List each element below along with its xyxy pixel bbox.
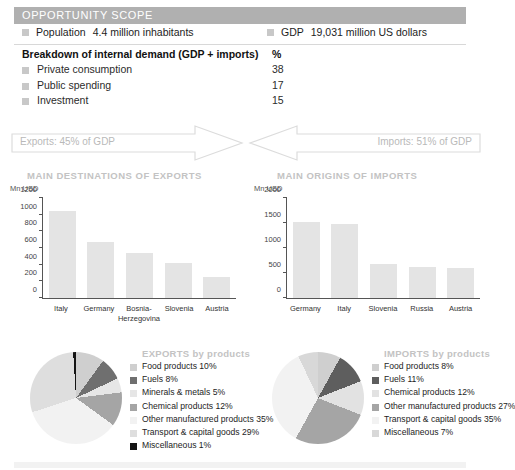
category-label: Germany — [286, 304, 325, 314]
axis-tick-label: 0 — [277, 285, 281, 294]
exports-pie-title: EXPORTS by products — [142, 348, 248, 359]
imports-origins-bar-chart: Mn USD 0500100015002000 GermanyItalySlov… — [252, 184, 488, 334]
legend-swatch-icon — [372, 430, 379, 437]
legend-label: Food products 8% — [384, 361, 454, 371]
breakdown-unit: % — [272, 48, 281, 60]
legend-label: Fuels 11% — [384, 374, 424, 384]
axis-tick — [39, 214, 43, 215]
x-axis-category-labels: ItalyGermanyBosnia-HerzegovinaSloveniaAu… — [42, 304, 236, 323]
fact-gdp: GDP 19,031 million US dollars — [267, 26, 427, 38]
category-label: Italy — [42, 304, 80, 323]
axis-tick-label: 200 — [24, 268, 37, 277]
axis-tick — [283, 297, 287, 298]
legend-swatch-icon — [372, 377, 379, 384]
fact-population-value: 4.4 million inhabitants — [93, 26, 194, 38]
legend-label: Chemical products 12% — [384, 387, 475, 397]
imports-legend-items: Food products 8%Fuels 11%Chemical produc… — [372, 361, 497, 440]
bar — [447, 268, 474, 298]
exports-destinations-bar-chart: Mn USD 020040060080010001200 ItalyGerman… — [8, 184, 244, 334]
legend-item: Minerals & metals 5% — [130, 387, 248, 400]
bar — [165, 263, 192, 298]
plot-area: 0500100015002000 — [286, 198, 480, 299]
exports-pie-legend: EXPORTS by products Food products 10%Fue… — [130, 348, 248, 453]
legend-label: Miscellaneous 7% — [384, 427, 453, 437]
internal-demand-breakdown: Breakdown of internal demand (GDP + impo… — [14, 48, 466, 110]
category-label: Russia — [402, 304, 441, 314]
bar — [126, 253, 153, 298]
x-axis-category-labels: GermanyItalySloveniaRussiaAustria — [286, 304, 480, 314]
breakdown-row-value: 15 — [272, 94, 284, 106]
axis-tick-label: 1200 — [20, 185, 37, 194]
breakdown-row: Private consumption 38 — [14, 63, 466, 79]
axis-tick — [39, 297, 43, 298]
fact-gdp-value: 19,031 million US dollars — [311, 26, 427, 38]
breakdown-title: Breakdown of internal demand (GDP + impo… — [22, 48, 258, 60]
axis-tick — [39, 230, 43, 231]
bullet-square-icon — [22, 98, 29, 105]
breakdown-row-name: Private consumption — [37, 63, 132, 75]
axis-tick — [39, 264, 43, 265]
legend-swatch-icon — [130, 364, 137, 371]
legend-label: Miscellaneous 1% — [142, 440, 211, 450]
legend-swatch-icon — [372, 417, 379, 424]
legend-item: Other manufactured products 35% — [130, 414, 248, 427]
legend-swatch-icon — [130, 377, 137, 384]
legend-swatch-icon — [130, 430, 137, 437]
breakdown-row-name: Investment — [37, 94, 88, 106]
legend-item: Food products 8% — [372, 361, 497, 374]
category-label: Slovenia — [160, 304, 198, 323]
axis-tick-label: 500 — [268, 260, 281, 269]
category-label: Austria — [198, 304, 236, 323]
legend-swatch-icon — [130, 390, 137, 397]
legend-label: Other manufactured products 27% — [384, 401, 515, 411]
axis-tick-label: 400 — [24, 251, 37, 260]
imports-pie-title: IMPORTS by products — [384, 348, 497, 359]
bar-wrapper — [326, 198, 365, 298]
axis-tick-label: 600 — [24, 235, 37, 244]
exports-share-label: Exports: 45% of GDP — [20, 136, 115, 147]
bar-series — [43, 198, 236, 298]
legend-label: Food products 10% — [142, 361, 217, 371]
bar — [49, 211, 76, 299]
imports-pie-chart — [272, 352, 364, 444]
axis-tick — [39, 197, 43, 198]
bar-wrapper — [287, 198, 326, 298]
bar-wrapper — [159, 198, 198, 298]
bar-wrapper — [43, 198, 82, 298]
breakdown-row-name: Public spending — [37, 79, 111, 91]
category-label: Austria — [441, 304, 480, 314]
footer-bar — [14, 462, 466, 468]
key-facts-row: Population 4.4 million inhabitants GDP 1… — [14, 26, 466, 43]
plot-area: 020040060080010001200 — [42, 198, 236, 299]
bar-wrapper — [197, 198, 236, 298]
category-label: Italy — [325, 304, 364, 314]
axis-tick-label: 1000 — [20, 201, 37, 210]
legend-swatch-icon — [130, 417, 137, 424]
bar — [370, 264, 397, 298]
legend-item: Chemical products 12% — [130, 401, 248, 414]
fact-gdp-label: GDP — [281, 26, 304, 38]
axis-tick — [39, 280, 43, 281]
imports-by-products-block: IMPORTS by products Food products 8%Fuel… — [250, 348, 490, 460]
category-label: Bosnia-Herzegovina — [118, 304, 160, 323]
imports-pie-legend: IMPORTS by products Food products 8%Fuel… — [372, 348, 497, 440]
legend-item: Miscellaneous 1% — [130, 440, 248, 453]
category-label: Germany — [80, 304, 118, 323]
breakdown-row-value: 17 — [272, 79, 284, 91]
axis-tick-label: 2000 — [264, 185, 281, 194]
trade-flow-arrows: Exports: 45% of GDP Imports: 51% of GDP — [10, 124, 482, 162]
divider — [14, 44, 466, 45]
legend-swatch-icon — [372, 390, 379, 397]
exports-destinations-title: MAIN DESTINATIONS OF EXPORTS — [27, 170, 202, 181]
breakdown-row-value: 38 — [272, 63, 284, 75]
exports-by-products-block: EXPORTS by products Food products 10%Fue… — [8, 348, 248, 460]
category-label: Slovenia — [364, 304, 403, 314]
legend-label: Transport & capital goods 35% — [384, 414, 501, 424]
breakdown-header: Breakdown of internal demand (GDP + impo… — [14, 48, 466, 63]
breakdown-row: Investment 15 — [14, 94, 466, 110]
legend-label: Chemical products 12% — [142, 401, 233, 411]
legend-swatch-icon — [130, 404, 137, 411]
axis-tick — [283, 197, 287, 198]
legend-label: Minerals & metals 5% — [142, 387, 225, 397]
